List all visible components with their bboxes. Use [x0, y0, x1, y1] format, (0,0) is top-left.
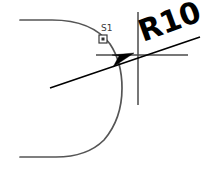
technical-drawing-svg: S1 R10: [0, 0, 212, 171]
cad-drawing-canvas: S1 R10: [0, 0, 212, 171]
s1-point-label: S1: [101, 23, 112, 33]
s1-point-marker-dot-icon: [102, 38, 105, 41]
